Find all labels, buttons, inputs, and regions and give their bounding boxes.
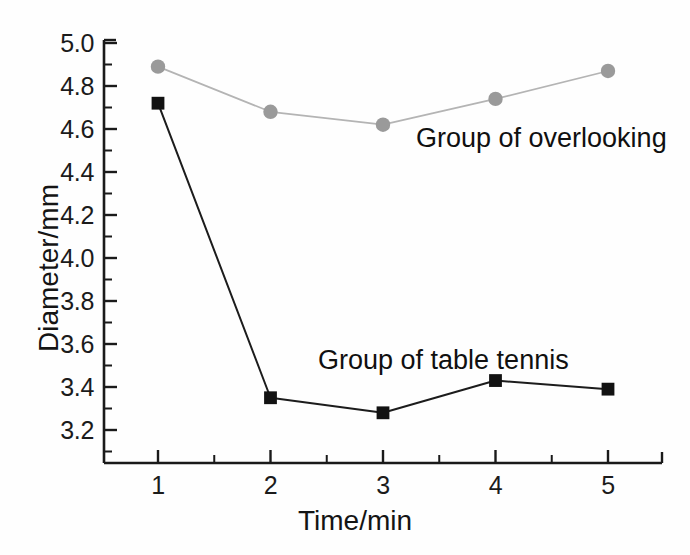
x-axis-title: Time/min (235, 505, 475, 537)
y-tick-label: 3.2 (12, 416, 94, 445)
data-point-overlooking (488, 92, 502, 106)
series-line-0 (158, 67, 608, 125)
x-tick-label: 4 (489, 471, 503, 500)
y-tick-label: 5.0 (12, 29, 94, 58)
data-point-overlooking (151, 59, 165, 73)
x-tick-label: 2 (264, 471, 278, 500)
data-point-overlooking (376, 118, 390, 132)
plot-area (0, 0, 690, 555)
series-label-overlooking: Group of overlooking (416, 123, 667, 154)
y-tick-label: 4.6 (12, 115, 94, 144)
chart-container: 3.23.43.63.84.04.24.44.64.85.0 12345 Dia… (0, 0, 690, 555)
data-point-overlooking (263, 105, 277, 119)
y-tick-label: 4.8 (12, 72, 94, 101)
data-point-table-tennis (264, 391, 277, 404)
data-point-table-tennis (152, 97, 165, 110)
x-tick-label: 1 (151, 471, 165, 500)
data-point-table-tennis (489, 374, 502, 387)
y-axis-title: Diameter/mm (33, 153, 65, 383)
x-tick-label: 5 (601, 471, 615, 500)
series-label-table-tennis: Group of table tennis (318, 345, 569, 376)
data-point-overlooking (601, 64, 615, 78)
x-tick-label: 3 (376, 471, 390, 500)
x-major-ticks (158, 450, 608, 463)
data-point-table-tennis (377, 406, 390, 419)
data-point-table-tennis (602, 383, 615, 396)
